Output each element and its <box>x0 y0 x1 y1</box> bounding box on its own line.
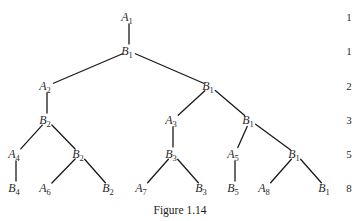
tree-node: B3 <box>165 147 177 163</box>
tree-edge <box>301 159 322 183</box>
tree-edge <box>215 91 244 116</box>
tree-edge <box>178 91 205 116</box>
tree-node: B1 <box>318 181 330 197</box>
row-counts-column: 112358 <box>346 11 352 194</box>
tree-node: B2 <box>72 147 84 163</box>
tree-node: B2 <box>102 181 114 197</box>
tree-node: B1 <box>288 147 300 163</box>
tree-edge <box>271 159 292 183</box>
tree-node: A6 <box>38 181 51 197</box>
tree-edge <box>21 125 43 149</box>
row-count: 3 <box>346 114 352 126</box>
tree-node: A5 <box>226 147 239 163</box>
tree-edge <box>52 159 75 183</box>
row-count: 1 <box>346 45 352 57</box>
tree-edge <box>53 54 122 84</box>
row-count: 8 <box>346 182 352 194</box>
tree-node: B1 <box>121 44 133 60</box>
tree-node: A8 <box>257 181 270 197</box>
row-count: 5 <box>346 148 352 160</box>
tree-node: B5 <box>227 181 239 197</box>
tree-diagram: A1B1A2B1B2A3B1A4B2B3A5B1B4A6B2A7B3B5A8B1… <box>0 0 361 221</box>
tree-edge <box>135 54 203 83</box>
tree-node: B3 <box>195 181 207 197</box>
row-count: 1 <box>346 11 352 23</box>
tree-edge <box>256 124 291 150</box>
tree-node: A1 <box>120 10 133 26</box>
tree-edge <box>178 159 199 183</box>
tree-node: A4 <box>7 147 20 163</box>
tree-nodes: A1B1A2B1B2A3B1A4B2B3A5B1B4A6B2A7B3B5A8B1 <box>7 10 330 197</box>
tree-node: A7 <box>134 181 147 197</box>
tree-node: B1 <box>242 113 254 129</box>
tree-node: B2 <box>39 113 51 129</box>
figure-caption: Figure 1.14 <box>153 204 206 217</box>
tree-edge <box>52 125 75 149</box>
tree-node: B4 <box>8 181 20 197</box>
tree-node: A2 <box>38 79 51 95</box>
row-count: 2 <box>346 80 352 92</box>
tree-edge <box>238 126 247 147</box>
tree-edge <box>148 159 169 183</box>
tree-edge <box>85 159 106 183</box>
tree-node: A3 <box>164 113 177 129</box>
tree-node: B1 <box>202 79 214 95</box>
